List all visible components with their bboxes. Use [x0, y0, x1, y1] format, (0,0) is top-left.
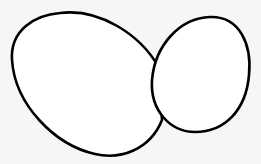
large-egg-shape — [12, 12, 162, 155]
diagram-canvas — [0, 0, 261, 164]
small-egg-shape — [152, 17, 250, 132]
